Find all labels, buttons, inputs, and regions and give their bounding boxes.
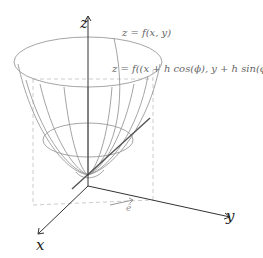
y-axis-label: y <box>226 207 234 225</box>
direction-vector-label: ê <box>126 203 131 213</box>
diagram-figure: z y x z = f(x, y) z = f((x + h cos(ϕ), y… <box>0 0 263 258</box>
z-axis-label: z <box>80 14 88 32</box>
tangent-line <box>72 118 150 189</box>
x-axis-label: x <box>36 236 44 254</box>
surface-equation-label: z = f(x, y) <box>122 27 171 38</box>
paraboloid-diagram <box>0 0 263 258</box>
slice-equation-label: z = f((x + h cos(ϕ), y + h sin(ϕ)) <box>112 63 263 74</box>
dashed-box <box>33 70 153 205</box>
